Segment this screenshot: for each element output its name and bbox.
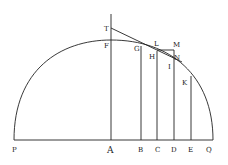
label-L: L xyxy=(154,40,159,48)
label-I: I xyxy=(168,63,171,71)
label-M: M xyxy=(173,41,180,49)
label-P: P xyxy=(12,146,17,154)
label-B: B xyxy=(138,146,143,154)
label-G: G xyxy=(134,45,140,53)
tangent-line-T xyxy=(111,28,182,62)
semi-ellipse-arc xyxy=(14,40,213,140)
label-N: N xyxy=(174,54,180,62)
label-T: T xyxy=(104,25,109,33)
label-F: F xyxy=(104,42,109,50)
label-C: C xyxy=(155,146,160,154)
label-K: K xyxy=(182,79,188,87)
label-D: D xyxy=(171,146,177,154)
label-E: E xyxy=(188,146,193,154)
label-H: H xyxy=(149,53,155,61)
label-Q: Q xyxy=(206,146,212,154)
label-A: A xyxy=(106,145,114,155)
geometry-diagram: T F G L M H N I K P A B C D E Q xyxy=(0,0,228,165)
